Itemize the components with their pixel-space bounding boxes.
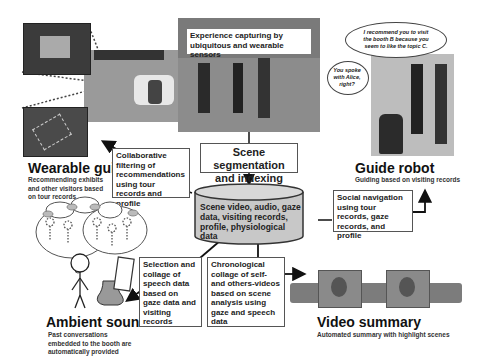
- ambient-sound-subtitle: Past conversations embedded to the booth…: [48, 331, 138, 357]
- chronological-collage-box: Chronological collage of self- and other…: [207, 257, 285, 327]
- video-summary-frame-1: [318, 270, 362, 308]
- video-summary-subtitle: Automated summary with highlight scenes: [317, 331, 450, 340]
- ambient-sound-title: Ambient sound: [46, 314, 148, 330]
- video-summary-frame-2: [386, 270, 430, 308]
- video-summary-title: Video summary: [317, 314, 421, 330]
- video-summary-filmstrip: [290, 283, 462, 303]
- selection-collage-box: Selection and collage of speech data bas…: [139, 257, 202, 327]
